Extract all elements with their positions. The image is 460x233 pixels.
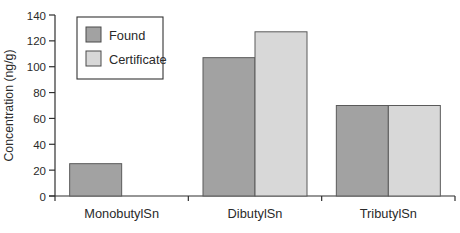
y-tick-label: 140 [27,10,46,22]
x-category-label: DibutylSn [228,206,283,221]
bar-chart-svg: 020406080100120140MonobutylSnDibutylSnTr… [0,0,460,233]
y-axis-title: Concentration (ng/g) [2,49,16,161]
bar-found-dibutylsn [203,58,255,196]
legend-swatch-certificate [86,51,101,66]
bar-certificate-dibutylsn [255,32,307,196]
bar-found-tributylsn [336,106,388,197]
legend-label: Found [109,28,145,43]
y-tick-label: 60 [33,113,46,125]
y-tick-label: 20 [33,165,46,177]
x-category-label: TributylSn [360,206,417,221]
legend-label: Certificate [109,52,167,67]
legend-swatch-found [86,27,101,42]
bar-chart: 020406080100120140MonobutylSnDibutylSnTr… [0,0,460,233]
x-category-label: MonobutylSn [84,206,159,221]
y-tick-label: 120 [27,35,46,47]
y-tick-label: 0 [40,191,46,203]
y-tick-label: 100 [27,61,46,73]
y-tick-label: 40 [33,139,46,151]
bar-certificate-tributylsn [388,106,440,197]
legend-box [77,17,163,79]
y-tick-label: 80 [33,87,46,99]
bar-found-monobutylsn [70,164,122,196]
